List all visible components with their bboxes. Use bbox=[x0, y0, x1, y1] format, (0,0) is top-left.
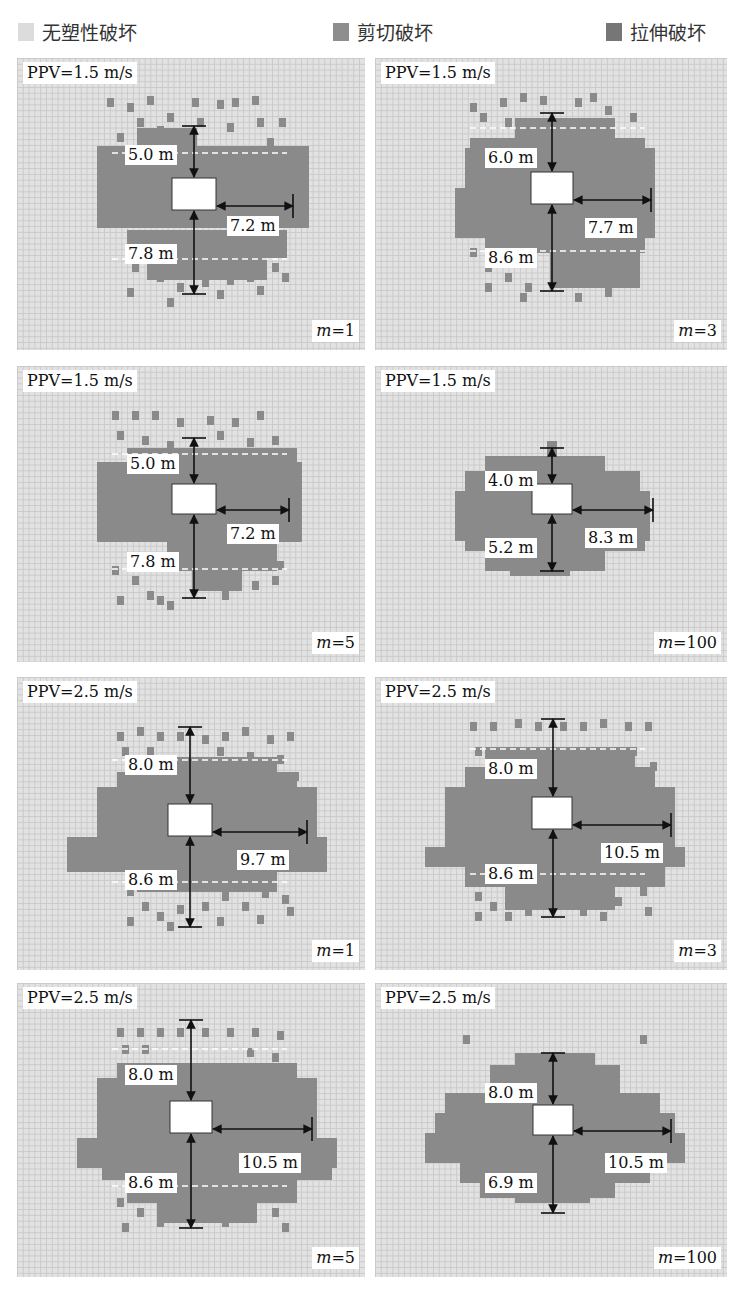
plastic-zone-cell bbox=[202, 1028, 209, 1037]
top-depth-label: 8.0 m bbox=[125, 755, 177, 775]
m-parameter-label: m=100 bbox=[654, 1247, 721, 1269]
plastic-zone-cell bbox=[600, 128, 607, 137]
m-variable: m bbox=[316, 1248, 331, 1267]
plastic-zone-cell bbox=[257, 118, 264, 127]
plastic-zone-cell bbox=[177, 1028, 184, 1037]
bottom-depth-label: 7.8 m bbox=[127, 552, 179, 572]
plastic-zone-cell bbox=[625, 722, 632, 731]
plastic-zone-cell bbox=[117, 431, 124, 440]
plastic-zone-cell bbox=[122, 1223, 129, 1232]
m-parameter-label: m=5 bbox=[312, 632, 359, 654]
plastic-zone-cell bbox=[463, 1035, 470, 1044]
plastic-zone-cell bbox=[635, 153, 642, 162]
m-variable: m bbox=[316, 941, 331, 960]
tunnel-opening bbox=[168, 804, 212, 836]
plastic-zone-cell bbox=[157, 1218, 164, 1227]
plastic-zone-cell bbox=[147, 591, 154, 600]
plastic-zone-cell bbox=[107, 98, 114, 107]
plastic-zone-cell bbox=[490, 902, 497, 911]
plastic-zone-cell bbox=[117, 1198, 124, 1207]
plastic-zone-cell bbox=[272, 1053, 279, 1062]
plastic-zone-cell bbox=[157, 732, 164, 741]
bottom-depth-label: 8.6 m bbox=[485, 248, 537, 268]
plastic-zone-cell bbox=[277, 1031, 284, 1040]
top-depth-label: 6.0 m bbox=[485, 148, 537, 168]
plastic-zone-cell bbox=[242, 902, 249, 911]
damage-panel-5: PPV=2.5 m/sm=18.0 m8.6 m9.7 m bbox=[17, 677, 365, 970]
plastic-zone-cell bbox=[167, 922, 174, 931]
plastic-zone-cell bbox=[202, 902, 209, 911]
plastic-zone-cell bbox=[257, 411, 264, 420]
plastic-zone-cell bbox=[535, 722, 542, 731]
plastic-zone-cell bbox=[132, 411, 139, 420]
legend-label: 无塑性破坏 bbox=[42, 18, 137, 45]
plastic-zone-cell bbox=[167, 298, 174, 307]
plastic-zone-cell bbox=[470, 722, 477, 731]
plastic-zone-cell bbox=[595, 263, 602, 272]
m-variable: m bbox=[316, 633, 331, 652]
plastic-zone-cell bbox=[137, 1208, 144, 1217]
side-depth-label: 7.2 m bbox=[227, 216, 279, 236]
plastic-zone-cell bbox=[222, 1218, 229, 1227]
tunnel-opening bbox=[533, 1105, 573, 1135]
side-depth-label: 7.2 m bbox=[227, 524, 279, 544]
damage-zone-plot bbox=[375, 677, 727, 970]
plastic-zone-cell bbox=[247, 1213, 254, 1222]
plastic-zone-cell bbox=[272, 576, 279, 585]
plastic-zone-cell bbox=[127, 288, 134, 297]
plastic-zone-cell bbox=[615, 268, 622, 277]
plastic-zone-cell bbox=[630, 113, 637, 122]
m-parameter-label: m=3 bbox=[674, 940, 721, 962]
plastic-zone-cell bbox=[147, 96, 154, 105]
ppv-label: PPV=2.5 m/s bbox=[381, 987, 495, 1009]
bottom-depth-label: 5.2 m bbox=[485, 538, 537, 558]
plastic-zone-cell bbox=[520, 93, 527, 102]
plastic-zone-cell bbox=[580, 722, 587, 731]
plastic-zone-cell bbox=[640, 1035, 647, 1044]
plastic-zone-cell bbox=[127, 917, 134, 926]
plastic-zone-cell bbox=[132, 263, 139, 272]
tunnel-opening bbox=[172, 178, 216, 210]
shear-swatch-icon bbox=[333, 23, 349, 41]
plastic-zone-cell bbox=[630, 253, 637, 262]
tension-swatch-icon bbox=[606, 23, 622, 41]
plastic-zone-cell bbox=[282, 1223, 289, 1232]
plastic-zone-cell bbox=[217, 747, 224, 756]
plastic-zone-cell bbox=[272, 263, 279, 272]
plastic-zone-cell bbox=[575, 293, 582, 302]
plastic-zone-cell bbox=[490, 722, 497, 731]
plastic-zone-cell bbox=[505, 273, 512, 282]
plastic-zone-cell bbox=[217, 431, 224, 440]
plastic-zone-cell bbox=[505, 912, 512, 921]
bottom-depth-label: 6.9 m bbox=[485, 1173, 537, 1193]
ppv-label: PPV=2.5 m/s bbox=[23, 681, 137, 703]
plastic-zone-cell bbox=[167, 113, 174, 122]
side-depth-label: 7.7 m bbox=[585, 218, 637, 238]
plastic-zone-cell bbox=[217, 100, 224, 109]
plastic-zone-cell bbox=[575, 98, 582, 107]
bottom-depth-label: 8.6 m bbox=[485, 864, 537, 884]
bottom-depth-label: 7.8 m bbox=[125, 244, 177, 264]
damage-zone-plot bbox=[375, 983, 727, 1277]
plastic-zone-cell bbox=[282, 895, 289, 904]
plastic-zone-cell bbox=[117, 596, 124, 605]
plastic-zone-cell bbox=[252, 1028, 259, 1037]
plastic-zone-cell bbox=[600, 912, 607, 921]
plastic-zone-cell bbox=[287, 907, 294, 916]
ppv-label: PPV=2.5 m/s bbox=[23, 987, 137, 1009]
plastic-zone-cell bbox=[247, 438, 254, 447]
top-depth-label: 4.0 m bbox=[485, 471, 537, 491]
legend-label: 剪切破坏 bbox=[357, 18, 433, 45]
plastic-zone-cell bbox=[262, 889, 269, 898]
plastic-zone-cell bbox=[207, 416, 214, 425]
plastic-zone-cell bbox=[605, 288, 612, 297]
tunnel-opening bbox=[531, 172, 573, 204]
plastic-zone-cell bbox=[132, 576, 139, 585]
damage-zone-plot bbox=[17, 983, 365, 1277]
plastic-zone-cell bbox=[252, 96, 259, 105]
plastic-zone-cell bbox=[177, 732, 184, 741]
plastic-zone-cell bbox=[267, 735, 274, 744]
tunnel-opening bbox=[172, 484, 216, 514]
plastic-zone-cell bbox=[540, 96, 547, 105]
plastic-zone-cell bbox=[257, 915, 264, 924]
